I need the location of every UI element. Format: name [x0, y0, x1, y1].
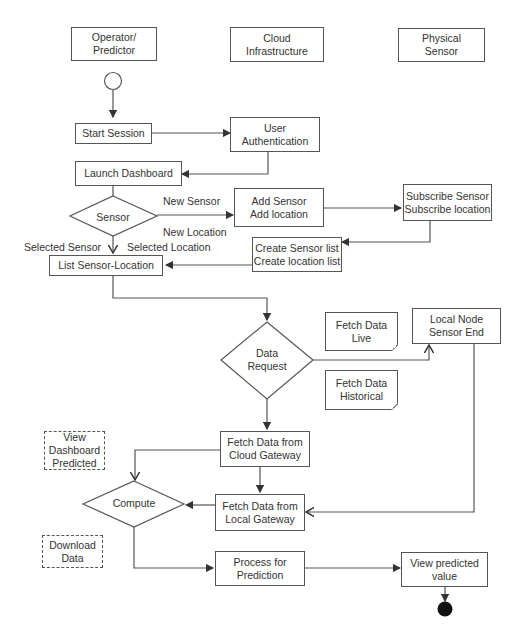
node-list-sensor-location: List Sensor-Location: [49, 255, 163, 276]
node-process-for-prediction: Process for Prediction: [215, 551, 305, 586]
decision-data-request-label: Data Request: [247, 347, 286, 373]
final-node: [438, 602, 453, 617]
lane-physical-sensor: Physical Sensor: [398, 28, 485, 62]
node-local-node-sensor-end: Local Node Sensor End: [412, 308, 501, 344]
node-fetch-local-gateway: Fetch Data from Local Gateway: [215, 494, 305, 531]
node-download-data: Download Data: [42, 535, 103, 568]
node-user-authentication: User Authentication: [230, 117, 320, 152]
edge-label-selected-location: Selected Location: [127, 241, 210, 253]
activity-diagram: Operator/ Predictor Cloud Infrastructure…: [0, 0, 525, 635]
node-view-dashboard-predicted: View Dashboard Predicted: [44, 431, 105, 470]
note-fetch-data-live: Fetch Data Live: [325, 312, 398, 351]
node-subscribe-sensor: Subscribe Sensor Subscribe location: [403, 184, 492, 221]
edge-label-new-location: New Location: [163, 226, 227, 238]
note-fetch-data-historical: Fetch Data Historical: [325, 370, 398, 410]
decision-compute-label: Compute: [113, 497, 156, 510]
initial-node: [105, 73, 122, 90]
decision-sensor-label: Sensor: [96, 211, 129, 224]
node-launch-dashboard: Launch Dashboard: [75, 161, 182, 186]
node-create-list: Create Sensor list Create location list: [252, 237, 342, 272]
edge-label-selected-sensor: Selected Sensor: [24, 241, 101, 253]
lane-cloud-infrastructure: Cloud Infrastructure: [230, 27, 324, 62]
node-start-session: Start Session: [75, 123, 152, 144]
node-add-sensor: Add Sensor Add location: [234, 188, 324, 227]
node-fetch-cloud-gateway: Fetch Data from Cloud Gateway: [220, 431, 310, 467]
node-view-predicted-value: View predicted value: [401, 552, 488, 587]
lane-operator-predictor: Operator/ Predictor: [71, 27, 157, 61]
edge-label-new-sensor: New Sensor: [163, 195, 220, 207]
